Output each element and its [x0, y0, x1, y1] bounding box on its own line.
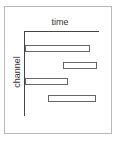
channel-axis: [24, 31, 25, 116]
channel-bar-4: [48, 95, 96, 102]
time-axis: [24, 31, 99, 32]
channel-bar-3: [25, 78, 68, 85]
y-axis-label: channel: [12, 56, 22, 88]
channel-bar-2: [63, 62, 97, 69]
x-axis-label: time: [44, 17, 76, 27]
channel-bar-1: [25, 45, 90, 52]
